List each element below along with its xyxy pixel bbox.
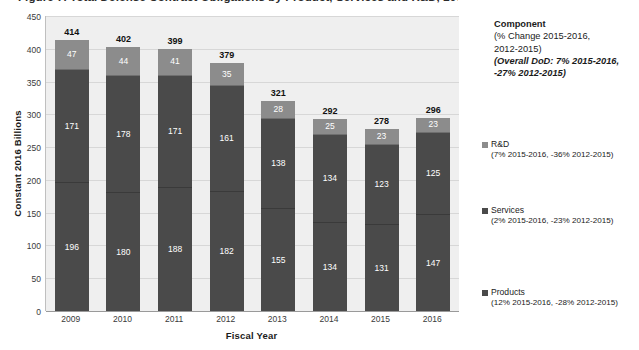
legend-subline-1: (% Change 2015-2016,	[494, 30, 639, 42]
bar-segment-randd-2016[interactable]: 23	[416, 118, 450, 133]
bar-segment-products-2010[interactable]: 180	[106, 193, 140, 311]
bar-segment-value: 138	[271, 159, 285, 168]
legend-subline-2: 2012-2015)	[494, 43, 639, 55]
x-axis-tick-2011: 2011	[165, 314, 183, 324]
bar-segment-value: 171	[65, 122, 79, 131]
bar-segment-value: 28	[274, 105, 283, 114]
bar-total-label-2013: 321	[271, 88, 286, 98]
legend-series-change: (2% 2015-2016, -23% 2012-2015)	[491, 216, 638, 226]
bar-segment-services-2013[interactable]: 138	[261, 119, 295, 209]
bar-segment-products-2012[interactable]: 182	[210, 192, 244, 311]
legend-overall-line-2: -27% 2012-2015)	[494, 67, 639, 79]
chart-area: Constant 2016 Billions 45040035030025020…	[0, 10, 470, 350]
legend-series-name: Products	[491, 288, 525, 298]
legend-row: Products	[482, 288, 638, 298]
bar-segment-services-2010[interactable]: 178	[106, 76, 140, 193]
bar-segment-services-2012[interactable]: 161	[210, 86, 244, 192]
legend-overall-line-1: (Overall DoD: 7% 2015-2016,	[494, 55, 639, 67]
bar-segment-value: 41	[170, 57, 179, 66]
bar-segment-value: 35	[222, 70, 231, 79]
gridline: 0	[46, 311, 459, 312]
bar-segment-products-2016[interactable]: 147	[416, 215, 450, 311]
legend-swatch-icon	[482, 290, 488, 296]
chart-page: Figure 7. Total Defense Contract Obligat…	[0, 0, 639, 350]
x-axis-ticks: 20092010201120122013201420152016	[45, 314, 458, 328]
bar-group-2012[interactable]: 35161182379	[210, 63, 244, 311]
bar-total-label-2016: 296	[426, 105, 441, 115]
x-axis-tick-2015: 2015	[371, 314, 390, 324]
y-axis-tick: 350	[27, 78, 41, 88]
bar-segment-value: 131	[374, 264, 388, 273]
x-axis-label: Fiscal Year	[45, 330, 458, 341]
y-axis-tick: 50	[32, 274, 41, 284]
x-axis-tick-2016: 2016	[423, 314, 442, 324]
legend-entry-products[interactable]: Products(12% 2015-2016, -28% 2012-2015)	[482, 288, 638, 308]
bar-segment-services-2015[interactable]: 123	[365, 145, 399, 226]
y-axis-tick: 0	[36, 307, 41, 317]
bar-total-label-2012: 379	[219, 50, 234, 60]
bar-segment-value: 178	[116, 130, 130, 139]
bar-segment-value: 171	[168, 127, 182, 136]
bar-segment-value: 188	[168, 245, 182, 254]
bar-series: 4717119641444178180402411711883993516118…	[46, 16, 459, 311]
bar-segment-randd-2014[interactable]: 25	[313, 119, 347, 135]
legend-series-change: (12% 2015-2016, -28% 2012-2015)	[491, 298, 638, 308]
bar-total-label-2015: 278	[374, 116, 389, 126]
bar-group-2013[interactable]: 28138155321	[261, 101, 295, 311]
bar-group-2010[interactable]: 44178180402	[106, 47, 140, 311]
bar-segment-products-2013[interactable]: 155	[261, 209, 295, 311]
bar-segment-services-2009[interactable]: 171	[55, 70, 89, 182]
bar-group-2014[interactable]: 25134134292	[313, 119, 347, 311]
legend-row: Services	[482, 206, 638, 216]
y-axis-tick: 400	[27, 45, 41, 55]
bar-segment-randd-2013[interactable]: 28	[261, 101, 295, 119]
x-axis-tick-2013: 2013	[268, 314, 287, 324]
bar-segment-services-2014[interactable]: 134	[313, 135, 347, 223]
bar-segment-products-2015[interactable]: 131	[365, 225, 399, 311]
bar-segment-products-2014[interactable]: 134	[313, 223, 347, 311]
x-axis-tick-2012: 2012	[216, 314, 235, 324]
legend-heading: Component	[494, 18, 639, 30]
bar-group-2015[interactable]: 23123131278	[365, 129, 399, 311]
bar-total-label-2009: 414	[64, 27, 79, 37]
legend-entry-randd[interactable]: R&D(7% 2015-2016, -36% 2012-2015)	[482, 140, 638, 160]
bar-total-label-2014: 292	[322, 106, 337, 116]
y-axis-tick: 150	[27, 209, 41, 219]
bar-segment-randd-2009[interactable]: 47	[55, 40, 89, 71]
legend-entry-services[interactable]: Services(2% 2015-2016, -23% 2012-2015)	[482, 206, 638, 226]
x-axis-tick-2014: 2014	[319, 314, 338, 324]
bar-segment-value: 134	[323, 263, 337, 272]
plot-area: 450400350300250200150100500 471711964144…	[45, 16, 459, 311]
bar-group-2009[interactable]: 47171196414	[55, 40, 89, 311]
bar-segment-value: 125	[426, 169, 440, 178]
bar-segment-value: 155	[271, 256, 285, 265]
bar-segment-value: 23	[377, 132, 386, 141]
y-axis-label: Constant 2016 Billions	[12, 84, 23, 244]
bar-segment-randd-2015[interactable]: 23	[365, 129, 399, 144]
bar-group-2016[interactable]: 23125147296	[416, 118, 450, 311]
x-axis-tick-2009: 2009	[61, 314, 80, 324]
legend-series-name: Services	[491, 206, 524, 216]
legend: Component (% Change 2015-2016, 2012-2015…	[494, 18, 639, 80]
legend-series-change: (7% 2015-2016, -36% 2012-2015)	[491, 150, 638, 160]
y-axis-tick: 300	[27, 110, 41, 120]
y-axis-tick: 450	[27, 12, 41, 22]
bar-segment-services-2016[interactable]: 125	[416, 133, 450, 215]
bar-segment-randd-2012[interactable]: 35	[210, 63, 244, 86]
bar-segment-products-2011[interactable]: 188	[158, 188, 192, 311]
bar-segment-randd-2010[interactable]: 44	[106, 47, 140, 76]
bar-segment-services-2011[interactable]: 171	[158, 76, 192, 188]
legend-series-name: R&D	[491, 140, 509, 150]
bar-segment-value: 180	[116, 248, 130, 257]
bar-segment-randd-2011[interactable]: 41	[158, 49, 192, 76]
legend-swatch-icon	[482, 208, 488, 214]
bar-total-label-2011: 399	[168, 36, 183, 46]
bar-segment-value: 123	[374, 180, 388, 189]
legend-swatch-icon	[482, 142, 488, 148]
bar-group-2011[interactable]: 41171188399	[158, 49, 192, 311]
bar-segment-value: 44	[119, 57, 128, 66]
y-axis-tick: 200	[27, 176, 41, 186]
legend-row: R&D	[482, 140, 638, 150]
bar-total-label-2010: 402	[116, 34, 131, 44]
bar-segment-products-2009[interactable]: 196	[55, 183, 89, 311]
